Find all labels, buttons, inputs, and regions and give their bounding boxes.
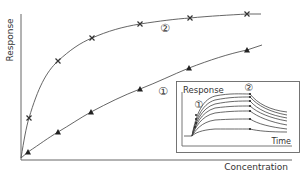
- curve-1-label: ①: [158, 85, 168, 98]
- chart-canvas: Response Concentration ② ① Response Time…: [0, 0, 305, 182]
- y-axis-label: Response: [5, 18, 15, 62]
- inset-y-label: Response: [183, 85, 224, 95]
- x-axis-label: Concentration: [224, 162, 288, 172]
- inset-mark-2: ②: [245, 82, 254, 93]
- inset-sensorgram: Response Time ① ②: [177, 82, 300, 153]
- inset-mark-1: ①: [195, 99, 204, 110]
- curve-2-label: ②: [160, 22, 170, 35]
- inset-x-label: Time: [270, 137, 291, 146]
